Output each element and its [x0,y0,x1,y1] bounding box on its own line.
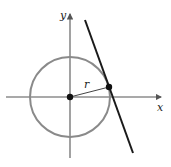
tangent-point [106,84,112,90]
radius-label: r [84,78,90,91]
radius-segment [70,87,109,97]
y-axis-label: y [59,9,67,22]
tangent-line-diagram: y x r [0,0,171,167]
origin-point [67,94,73,100]
x-axis-label: x [157,101,164,114]
